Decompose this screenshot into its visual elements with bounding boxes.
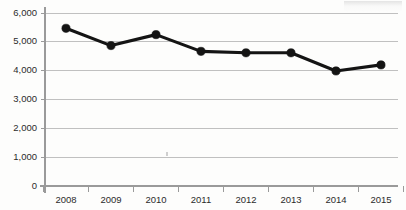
data-point-marker	[107, 41, 115, 49]
x-axis-tick-label: 2009	[100, 194, 121, 205]
x-axis-tick-label: 2015	[370, 194, 391, 205]
x-axis-tick-label: 2013	[280, 194, 301, 205]
y-axis-tick-label: 5,000	[13, 35, 37, 46]
y-axis-tick-label: 6,000	[13, 7, 37, 18]
y-axis-tick-label: 4,000	[13, 64, 37, 75]
x-axis-tick-label: 2012	[235, 194, 256, 205]
data-point-marker	[62, 24, 70, 32]
x-axis-tick-label: 2010	[145, 194, 166, 205]
x-axis-tick-label: 2011	[191, 194, 211, 205]
data-point-marker	[287, 49, 295, 57]
x-axis-tick-labels: 20082009201020112012201320142015	[55, 194, 391, 205]
x-axis	[40, 186, 404, 192]
gridlines	[45, 13, 398, 157]
chart-plot-area: 01,0002,0003,0004,0005,0006,000 20082009…	[0, 0, 406, 210]
data-series-line	[66, 28, 381, 71]
x-axis-tick-label: 2008	[55, 194, 76, 205]
data-point-marker	[197, 47, 205, 55]
y-axis-tick-label: 0	[32, 180, 37, 191]
y-axis-tick-label: 2,000	[13, 122, 37, 133]
data-point-marker	[152, 31, 160, 39]
y-axis-tick-label: 1,000	[13, 151, 37, 162]
y-axis-tick-label: 3,000	[13, 93, 37, 104]
data-point-marker	[242, 49, 250, 57]
y-axis-tick-labels: 01,0002,0003,0004,0005,0006,000	[13, 7, 37, 191]
data-point-markers	[62, 24, 385, 75]
data-point-marker	[377, 61, 385, 69]
x-axis-tick-label: 2014	[325, 194, 346, 205]
y-axis	[41, 7, 45, 193]
data-point-marker	[332, 67, 340, 75]
line-chart: 01,0002,0003,0004,0005,0006,000 20082009…	[0, 0, 406, 210]
series-polyline	[66, 28, 381, 71]
